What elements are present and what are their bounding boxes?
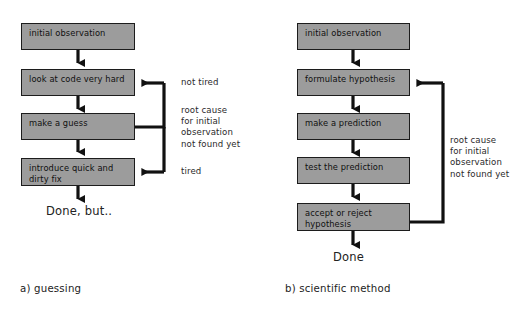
left-loop-label-tired: tired (181, 166, 201, 177)
right-box-formulate-hypothesis[interactable]: formulate hypothesis (297, 69, 410, 96)
left-box-look-at-code[interactable]: look at code very hard (21, 69, 135, 96)
right-box-test-the-prediction[interactable]: test the prediction (297, 157, 410, 184)
right-box-initial-observation[interactable]: initial observation (297, 23, 410, 50)
figure-canvas: initial observation look at code very ha… (0, 0, 528, 315)
left-loop-label-not-tired: not tired (181, 77, 219, 88)
right-box-make-a-prediction[interactable]: make a prediction (297, 113, 410, 140)
right-caption: b) scientific method (285, 283, 391, 294)
left-box-initial-observation[interactable]: initial observation (21, 23, 135, 50)
right-box-accept-or-reject[interactable]: accept or reject hypothesis (297, 203, 410, 231)
right-loop-label-root-cause: root cause for initial observation not f… (450, 135, 509, 180)
left-box-make-a-guess[interactable]: make a guess (21, 113, 135, 140)
left-loop-label-root-cause: root cause for initial observation not f… (181, 105, 240, 150)
left-terminal-done-but: Done, but.. (46, 204, 112, 218)
left-caption: a) guessing (20, 283, 81, 294)
left-box-quick-dirty-fix[interactable]: introduce quick and dirty fix (21, 158, 135, 186)
right-terminal-done: Done (333, 250, 364, 264)
